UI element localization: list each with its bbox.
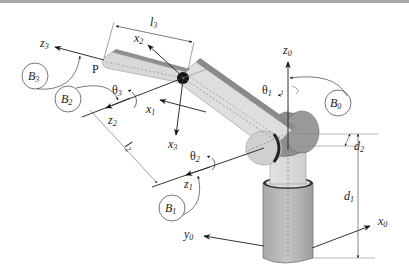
z3-axis: z3	[39, 36, 104, 60]
svg-text:x1: x1	[145, 102, 155, 117]
z0-label: z0	[282, 43, 292, 58]
d1-dimension: d1	[313, 134, 375, 258]
svg-text:z2: z2	[107, 113, 117, 128]
frame-b3: B3	[22, 56, 80, 89]
svg-text:B3: B3	[28, 69, 39, 84]
svg-text:x3: x3	[167, 137, 177, 152]
svg-text:d2: d2	[354, 139, 364, 154]
frame-b0: B0	[290, 77, 351, 116]
svg-text:x0: x0	[377, 214, 387, 229]
svg-text:B0: B0	[330, 96, 341, 111]
x0-axis: x0	[312, 214, 387, 248]
theta1-label: θ1	[262, 83, 298, 98]
svg-text:x2: x2	[133, 31, 143, 46]
x1-axis: x1	[145, 100, 206, 117]
svg-text:θ3: θ3	[112, 83, 122, 98]
svg-text:d1: d1	[344, 189, 354, 204]
robot-arm-diagram: z0 B0 θ1 d2 d1 x0 y0 z1	[0, 0, 409, 280]
y0-axis: y0	[183, 227, 264, 246]
svg-text:z3: z3	[39, 36, 49, 51]
svg-text:l3: l3	[150, 15, 157, 30]
point-p-label: P	[92, 62, 99, 76]
svg-text:z1: z1	[183, 177, 193, 192]
frame-b2: B2	[55, 86, 118, 112]
svg-text:B2: B2	[61, 92, 72, 107]
link-3	[102, 49, 190, 83]
svg-text:l2: l2	[121, 138, 137, 153]
x3-axis: x3	[167, 80, 183, 152]
svg-text:y0: y0	[183, 227, 193, 242]
svg-text:B1: B1	[165, 201, 176, 216]
svg-text:θ2: θ2	[190, 149, 200, 164]
l2-dimension: l2	[90, 110, 157, 183]
svg-text:θ1: θ1	[262, 83, 272, 98]
link-2	[175, 58, 296, 150]
